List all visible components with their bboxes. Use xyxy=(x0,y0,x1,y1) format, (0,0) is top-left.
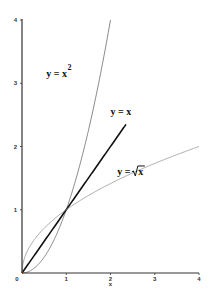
annotation-y-equals-x: y = x xyxy=(111,106,132,117)
line-y-equals-x xyxy=(22,124,126,273)
annotation-text: y = x xyxy=(46,68,67,79)
x-tick-label: 0 xyxy=(15,276,19,282)
y-tick-label: 2 xyxy=(14,144,18,150)
curve-y-equals-sqrt-x xyxy=(22,147,199,274)
annotation-y-equals-sqrt-x: y = x xyxy=(117,166,145,177)
y-tick-label: 1 xyxy=(14,207,18,213)
annotation-y-equals-x-squared: y = x 2 xyxy=(46,63,71,79)
x-tick-label: 3 xyxy=(153,276,157,282)
x-tick-label: 1 xyxy=(65,276,69,282)
x-axis-label: x xyxy=(109,281,113,287)
annotation-superscript: 2 xyxy=(68,63,72,72)
chart: 01234 1234 x y = x 2 y = x y = x xyxy=(0,0,212,288)
y-tick-label: 4 xyxy=(14,17,18,23)
y-ticks-group: 1234 xyxy=(14,17,22,213)
annotation-text: y = xyxy=(117,166,131,177)
curves-group xyxy=(22,20,199,273)
annotation-text: y = x xyxy=(111,106,132,117)
y-tick-label: 3 xyxy=(14,80,18,86)
x-tick-label: 4 xyxy=(197,276,201,282)
curve-y-equals-x-squared xyxy=(22,20,111,273)
annotation-radicand: x xyxy=(138,166,143,177)
